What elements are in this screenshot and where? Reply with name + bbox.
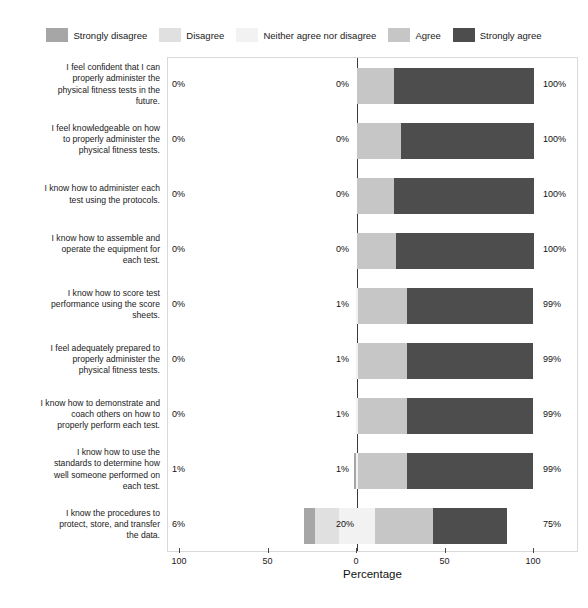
value-label-negative: 0% bbox=[172, 189, 185, 199]
category-label-line: each test. bbox=[8, 481, 160, 492]
value-label-neutral: 0% bbox=[336, 134, 349, 144]
category-label: I know how to assemble andoperate the eq… bbox=[8, 233, 160, 267]
value-label-negative: 0% bbox=[172, 79, 185, 89]
category-label-line: test using the protocols. bbox=[8, 195, 160, 206]
category-label-line: properly perform each test. bbox=[8, 420, 160, 431]
bar-segment-agree bbox=[358, 288, 408, 324]
legend-item-2[interactable]: Neither agree nor disagree bbox=[236, 28, 376, 42]
value-label-positive: 100% bbox=[543, 134, 566, 144]
legend-swatch-icon bbox=[159, 28, 181, 42]
value-label-neutral: 1% bbox=[336, 354, 349, 364]
legend-label: Neither agree nor disagree bbox=[263, 30, 376, 41]
value-label-positive: 99% bbox=[543, 354, 561, 364]
x-axis-tick-label: 50 bbox=[262, 556, 272, 566]
bar-segment-strongly-agree bbox=[394, 68, 534, 104]
bar-segment-agree bbox=[358, 453, 408, 489]
category-label-line: properly administer the bbox=[8, 73, 160, 84]
category-label-line: performance using the score bbox=[8, 299, 160, 310]
category-label-line: protect, store, and transfer bbox=[8, 519, 160, 530]
legend-item-1[interactable]: Disagree bbox=[159, 28, 224, 42]
bar-segment-strongly-agree bbox=[407, 343, 533, 379]
category-label-line: I know how to assemble and bbox=[8, 233, 160, 244]
value-label-negative: 0% bbox=[172, 409, 185, 419]
category-label-line: standards to determine how bbox=[8, 458, 160, 469]
category-label-line: I know how to demonstrate and bbox=[8, 398, 160, 409]
bar-segment-strongly-agree bbox=[407, 453, 533, 489]
category-label-line: each test. bbox=[8, 255, 160, 266]
x-axis-tick bbox=[533, 548, 534, 553]
value-label-neutral: 1% bbox=[336, 299, 349, 309]
category-label: I know how to demonstrate andcoach other… bbox=[8, 398, 160, 432]
bar-segment-agree bbox=[357, 123, 401, 159]
value-label-negative: 0% bbox=[172, 354, 185, 364]
value-label-neutral: 0% bbox=[336, 244, 349, 254]
legend-label: Disagree bbox=[186, 30, 224, 41]
category-label-line: physical fitness tests. bbox=[8, 145, 160, 156]
value-label-negative: 1% bbox=[172, 464, 185, 474]
legend-item-3[interactable]: Agree bbox=[388, 28, 440, 42]
category-label-line: I know how to administer each bbox=[8, 183, 160, 194]
x-axis-tick-label: 50 bbox=[439, 556, 449, 566]
category-label-line: I know the procedures to bbox=[8, 508, 160, 519]
category-label-line: I know how to use the bbox=[8, 447, 160, 458]
legend-label: Agree bbox=[415, 30, 440, 41]
x-axis-tick bbox=[356, 548, 357, 553]
category-label-line: the data. bbox=[8, 530, 160, 541]
value-label-positive: 100% bbox=[543, 244, 566, 254]
value-label-negative: 0% bbox=[172, 299, 185, 309]
category-label-line: coach others on how to bbox=[8, 409, 160, 420]
category-label-line: to properly administer the bbox=[8, 134, 160, 145]
legend-swatch-icon bbox=[46, 28, 68, 42]
bar-segment-agree bbox=[375, 508, 433, 544]
category-label: I feel confident that I canproperly admi… bbox=[8, 62, 160, 107]
x-axis-tick-label: 0 bbox=[353, 556, 358, 566]
value-label-negative: 6% bbox=[172, 519, 185, 529]
category-label-line: I feel adequately prepared to bbox=[8, 343, 160, 354]
legend-label: Strongly disagree bbox=[73, 30, 147, 41]
value-label-positive: 100% bbox=[543, 189, 566, 199]
bar-segment-strongly-agree bbox=[394, 178, 534, 214]
bar-segment-strongly-agree bbox=[401, 123, 534, 159]
category-label: I know how to use thestandards to determ… bbox=[8, 447, 160, 492]
category-label-line: I feel confident that I can bbox=[8, 62, 160, 73]
category-label-line: sheets. bbox=[8, 310, 160, 321]
category-label-line: future. bbox=[8, 96, 160, 107]
legend-swatch-icon bbox=[453, 28, 475, 42]
legend-swatch-icon bbox=[388, 28, 410, 42]
bar-segment-agree bbox=[357, 233, 396, 269]
bar-segment-strongly-agree bbox=[407, 398, 533, 434]
x-axis-tick bbox=[445, 548, 446, 553]
category-label-line: properly administer the bbox=[8, 354, 160, 365]
value-label-positive: 99% bbox=[543, 299, 561, 309]
category-label: I feel adequately prepared toproperly ad… bbox=[8, 343, 160, 377]
x-axis-tick bbox=[179, 548, 180, 553]
category-label-line: operate the equipment for bbox=[8, 244, 160, 255]
bar-segment-strongly-disagree bbox=[304, 508, 315, 544]
x-axis-tick bbox=[268, 548, 269, 553]
category-label-line: well someone performed on bbox=[8, 470, 160, 481]
x-axis-title: Percentage bbox=[167, 568, 578, 580]
category-label: I know how to score testperformance usin… bbox=[8, 288, 160, 322]
value-label-neutral: 1% bbox=[336, 464, 349, 474]
x-axis-tick-label: 100 bbox=[525, 556, 540, 566]
x-axis: 10050050100 bbox=[167, 552, 578, 553]
chart-legend: Strongly disagreeDisagreeNeither agree n… bbox=[0, 28, 588, 42]
value-label-negative: 0% bbox=[172, 244, 185, 254]
bar-segment-agree bbox=[357, 178, 394, 214]
category-label: I know the procedures toprotect, store, … bbox=[8, 508, 160, 542]
value-label-positive: 75% bbox=[543, 519, 561, 529]
value-label-neutral: 20% bbox=[336, 519, 354, 529]
likert-diverging-bar-chart: Strongly disagreeDisagreeNeither agree n… bbox=[0, 0, 588, 608]
legend-swatch-icon bbox=[236, 28, 258, 42]
bar-segment-strongly-agree bbox=[433, 508, 507, 544]
legend-item-4[interactable]: Strongly agree bbox=[453, 28, 542, 42]
x-axis-tick-label: 100 bbox=[171, 556, 186, 566]
value-label-positive: 99% bbox=[543, 464, 561, 474]
value-label-negative: 0% bbox=[172, 134, 185, 144]
legend-item-0[interactable]: Strongly disagree bbox=[46, 28, 147, 42]
category-label-line: I know how to score test bbox=[8, 288, 160, 299]
value-label-neutral: 1% bbox=[336, 409, 349, 419]
category-label: I know how to administer eachtest using … bbox=[8, 183, 160, 205]
value-label-neutral: 0% bbox=[336, 189, 349, 199]
bar-segment-strongly-agree bbox=[396, 233, 534, 269]
